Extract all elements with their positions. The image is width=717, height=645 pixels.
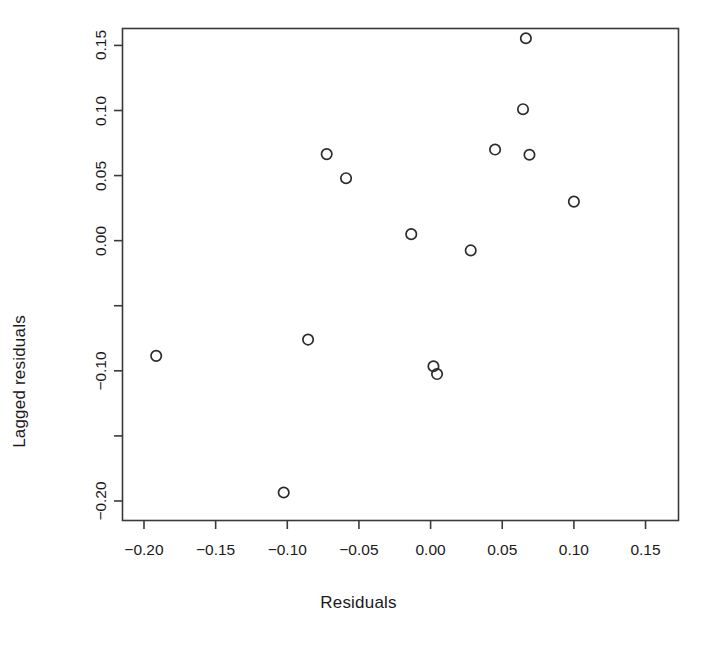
x-tick-label: 0.05 [487, 541, 517, 559]
plot-frame-rect [123, 29, 679, 521]
y-axis-title-text: Lagged residuals [0, 0, 40, 645]
data-point [341, 173, 351, 183]
scatter-plot-figure: −0.20−0.15−0.10−0.050.000.050.100.15 0.1… [0, 0, 717, 645]
y-tick-label: 0.10 [92, 95, 110, 125]
x-axis-ticks [144, 521, 646, 530]
x-tick-label: −0.20 [124, 541, 163, 559]
data-point [521, 33, 531, 43]
x-tick-label: 0.00 [415, 541, 445, 559]
x-axis-title: Residuals [0, 593, 717, 613]
data-point [151, 351, 161, 361]
data-point [518, 104, 528, 114]
data-point [303, 334, 313, 344]
data-point [490, 144, 500, 154]
data-points [151, 33, 579, 498]
data-point [524, 150, 534, 160]
y-tick-label: −0.20 [92, 481, 110, 520]
x-tick-label: 0.15 [630, 541, 660, 559]
x-tick-label: −0.10 [268, 541, 307, 559]
x-tick-label: 0.10 [559, 541, 589, 559]
y-axis-title: Lagged residuals [0, 0, 40, 645]
y-tick-label: 0.15 [92, 30, 110, 60]
data-point [279, 487, 289, 497]
plot-frame [123, 29, 679, 521]
data-point [466, 245, 476, 255]
data-point [406, 229, 416, 239]
data-point [569, 196, 579, 206]
y-tick-label: 0.05 [92, 160, 110, 190]
x-tick-label: −0.05 [339, 541, 378, 559]
y-axis-ticks [114, 45, 123, 501]
x-tick-label: −0.15 [196, 541, 235, 559]
y-tick-label: −0.10 [92, 351, 110, 390]
data-point [322, 149, 332, 159]
y-tick-label: 0.00 [92, 226, 110, 256]
